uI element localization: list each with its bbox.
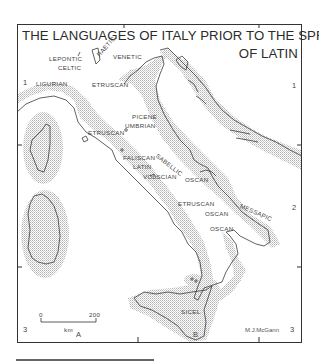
label-volscian: VOLSCIAN	[143, 173, 177, 180]
label-faliscan: FALISCAN	[123, 154, 155, 161]
grid-label-left-3: 3	[23, 325, 27, 334]
label-etruscan-south: ETRUSCAN	[178, 200, 214, 207]
grid-label-right-1: 1	[292, 81, 296, 90]
label-celtic: CELTIC	[58, 64, 81, 71]
label-picene: PICENE	[132, 113, 157, 120]
label-venetic: VENETIC	[113, 53, 142, 60]
grid-label-bottom-a: A	[76, 330, 81, 339]
map-figure: THE LANGUAGES OF ITALY PRIOR TO THE SPRE…	[0, 0, 319, 363]
label-etruscan-north: ETRUSCAN	[92, 81, 128, 88]
map-title-line2: OF LATIN	[239, 46, 298, 61]
grid-label-right-2: 2	[292, 203, 296, 212]
label-ligurian: LIGURIAN	[36, 80, 68, 87]
map-title-line1: THE LANGUAGES OF ITALY PRIOR TO THE SPRE…	[22, 28, 319, 43]
label-lepontic: LEPONTIC	[49, 55, 82, 62]
grid-label-right-3: 3	[290, 325, 294, 334]
label-oscan-central: OSCAN	[185, 176, 209, 183]
label-oscan-south-2: OSCAN	[210, 225, 234, 232]
label-sicel: SICEL	[181, 308, 200, 315]
grid-label-left-1: 1	[23, 78, 27, 87]
label-etruscan-west: ETRUSCAN	[88, 129, 124, 136]
label-latin: LATIN	[133, 163, 152, 170]
label-oscan-south-1: OSCAN	[205, 210, 229, 217]
scale-bar-end: 200	[89, 311, 100, 318]
map-credit: M.J.McGann	[245, 327, 279, 333]
map-frame	[17, 24, 302, 343]
grid-label-bottom-b: B	[193, 330, 198, 339]
label-umbrian: UMBRIAN	[125, 122, 156, 129]
separator-rule	[16, 359, 154, 361]
scale-bar-unit: km	[64, 326, 73, 333]
scale-bar-start: 0	[39, 311, 43, 318]
